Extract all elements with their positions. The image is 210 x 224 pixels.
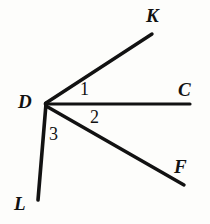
point-label-l: L [14, 194, 26, 213]
point-label-f: F [174, 157, 187, 176]
angle-label-2: 2 [90, 108, 99, 126]
point-label-d: D [18, 92, 32, 111]
vertex-point-d [44, 102, 49, 107]
angle-diagram-figure: D K C F L 1 2 3 [0, 0, 210, 224]
diagram-background [0, 0, 210, 224]
diagram-canvas [0, 0, 210, 224]
angle-label-1: 1 [80, 80, 89, 98]
angle-label-3: 3 [49, 125, 58, 143]
point-label-k: K [146, 6, 159, 25]
point-label-c: C [178, 80, 191, 99]
